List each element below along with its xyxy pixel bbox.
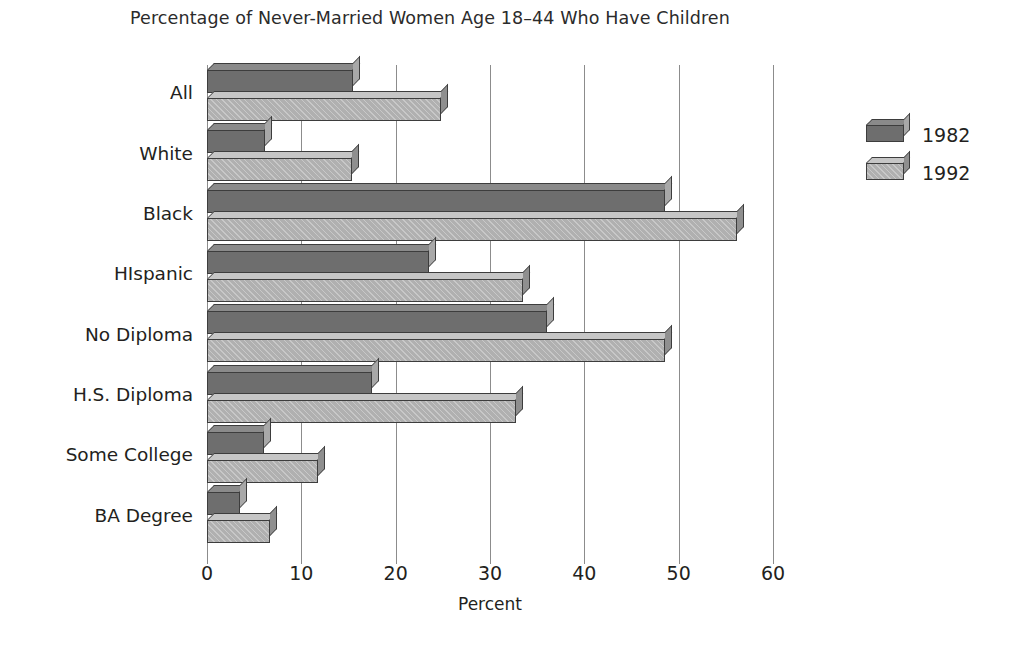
bar-side-face xyxy=(547,297,554,327)
bar-top-face xyxy=(207,151,360,158)
bar xyxy=(207,130,265,153)
bar-front-face xyxy=(207,158,352,181)
bar xyxy=(207,492,240,515)
gridline xyxy=(773,65,774,548)
bar-top-face xyxy=(207,244,436,251)
bar-side-face xyxy=(516,385,523,415)
bar-top-face xyxy=(207,272,530,279)
bar-front-face xyxy=(207,432,264,455)
legend-swatch xyxy=(866,163,904,180)
bar-top-face xyxy=(207,63,360,70)
plot-area xyxy=(207,65,773,548)
x-axis-title: Percent xyxy=(207,594,773,614)
category-label: H.S. Diploma xyxy=(3,384,193,405)
gridline xyxy=(679,65,680,548)
bar-front-face xyxy=(207,130,265,153)
bar-top-face xyxy=(207,91,448,98)
x-tick-label: 40 xyxy=(554,562,614,584)
bar-top-face xyxy=(207,453,326,460)
bar xyxy=(207,158,352,181)
bar-side-face xyxy=(265,116,272,146)
bar-front-face xyxy=(207,279,523,302)
bar-side-face xyxy=(665,325,672,355)
x-tick-label: 10 xyxy=(271,562,331,584)
bar-front-face xyxy=(207,460,318,483)
bar-front-face xyxy=(207,400,516,423)
bar-side-face xyxy=(318,446,325,476)
bar-side-face xyxy=(665,176,672,206)
bar-front-face xyxy=(207,520,270,543)
bar xyxy=(207,190,665,213)
category-label: HIspanic xyxy=(3,263,193,284)
legend-label: 1992 xyxy=(922,156,970,190)
bar xyxy=(207,339,665,362)
y-axis-category-labels: AllWhiteBlackHIspanicNo DiplomaH.S. Dipl… xyxy=(0,65,193,548)
bar-side-face xyxy=(270,506,277,536)
bar-top-face xyxy=(207,211,744,218)
chart-container: Percentage of Never-Married Women Age 18… xyxy=(0,0,1012,646)
bar-side-face xyxy=(523,265,530,295)
legend-item: 1992 xyxy=(866,156,1006,194)
bar-top-face xyxy=(207,183,672,190)
bar xyxy=(207,311,547,334)
bar-side-face xyxy=(353,55,360,85)
bar xyxy=(207,251,429,274)
category-label: No Diploma xyxy=(3,324,193,345)
bar xyxy=(207,372,372,395)
bar-front-face xyxy=(207,251,429,274)
legend-swatch-side xyxy=(904,113,910,136)
bar-front-face xyxy=(207,70,353,93)
chart-title: Percentage of Never-Married Women Age 18… xyxy=(0,8,860,28)
bar xyxy=(207,218,737,241)
gridline xyxy=(584,65,585,548)
x-tick-label: 0 xyxy=(177,562,237,584)
legend-swatch xyxy=(866,125,904,142)
category-label: All xyxy=(3,82,193,103)
x-tick-label: 30 xyxy=(460,562,520,584)
bar-front-face xyxy=(207,218,737,241)
x-tick-label: 20 xyxy=(366,562,426,584)
bar xyxy=(207,98,441,121)
bar-top-face xyxy=(207,304,554,311)
bar xyxy=(207,520,270,543)
category-label: Black xyxy=(3,203,193,224)
bar-side-face xyxy=(737,204,744,234)
bar-front-face xyxy=(207,311,547,334)
legend-swatch-side xyxy=(904,151,910,174)
bar-top-face xyxy=(207,425,271,432)
legend-swatch-face xyxy=(866,125,904,142)
legend-label: 1982 xyxy=(922,118,970,152)
category-label: White xyxy=(3,143,193,164)
bar-front-face xyxy=(207,190,665,213)
legend-item: 1982 xyxy=(866,118,1006,156)
bar-front-face xyxy=(207,339,665,362)
bar-top-face xyxy=(207,513,277,520)
bar xyxy=(207,432,264,455)
bar-front-face xyxy=(207,492,240,515)
bar-front-face xyxy=(207,98,441,121)
bar-front-face xyxy=(207,372,372,395)
bar-side-face xyxy=(240,478,247,508)
x-tick-label: 50 xyxy=(649,562,709,584)
bar xyxy=(207,400,516,423)
x-tick-label: 60 xyxy=(743,562,803,584)
legend-swatch-face xyxy=(866,163,904,180)
bar-top-face xyxy=(207,365,379,372)
bar-side-face xyxy=(441,83,448,113)
bar-top-face xyxy=(207,332,672,339)
category-label: Some College xyxy=(3,444,193,465)
bar xyxy=(207,70,353,93)
bar xyxy=(207,279,523,302)
chart-legend: 19821992 xyxy=(866,118,1006,194)
bar-top-face xyxy=(207,393,524,400)
bar xyxy=(207,460,318,483)
bar-side-face xyxy=(372,357,379,387)
category-label: BA Degree xyxy=(3,505,193,526)
bar-side-face xyxy=(352,144,359,174)
bar-top-face xyxy=(207,123,273,130)
